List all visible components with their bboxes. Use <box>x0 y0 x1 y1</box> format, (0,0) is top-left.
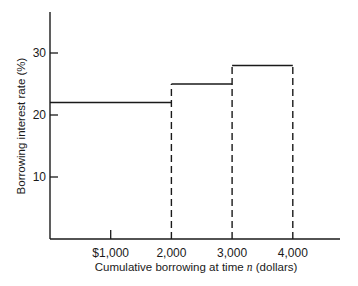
step-chart: 102030 $1,0002,0003,0004,000 Cumulative … <box>0 0 358 286</box>
x-tick-label: 4,000 <box>278 246 308 260</box>
y-tick-label: 10 <box>33 170 47 184</box>
y-tick-label: 30 <box>33 46 47 60</box>
axes <box>50 12 340 239</box>
x-axis-title: Cumulative borrowing at time n (dollars) <box>95 261 298 273</box>
y-tick-label: 20 <box>33 108 47 122</box>
x-tick-label: 3,000 <box>217 246 247 260</box>
x-tick-label: $1,000 <box>92 246 129 260</box>
x-ticks: $1,0002,0003,0004,000 <box>92 230 308 260</box>
plot-area <box>50 65 293 239</box>
x-tick-label: 2,000 <box>156 246 186 260</box>
y-axis-title: Borrowing interest rate (%) <box>15 57 27 194</box>
y-ticks: 102030 <box>33 46 58 184</box>
